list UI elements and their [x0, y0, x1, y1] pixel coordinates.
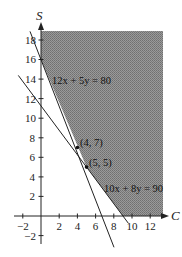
point-5-5-label: (5, 5): [89, 157, 112, 169]
x-tick-label: 10: [127, 220, 139, 232]
point-5-5: [85, 165, 89, 169]
point-4-7-label: (4, 7): [80, 137, 103, 149]
feasible-region-chart: −2 2 4 6 8 10 12 −2 2 4 6 8 10 12 14 16 …: [0, 0, 182, 257]
y-tick-label: 14: [25, 73, 37, 85]
x-tick-label: 2: [56, 220, 62, 232]
y-tick-label: 12: [25, 93, 36, 105]
point-4-7: [76, 146, 80, 150]
x-tick-labels: −2 2 4 6 8 10 12: [17, 220, 156, 232]
x-tick-label: 12: [145, 220, 156, 232]
y-tick-label: 8: [30, 132, 36, 144]
y-tick-label: 2: [30, 190, 36, 202]
y-axis-arrow-icon: [38, 22, 44, 30]
x-axis-arrow-icon: [161, 213, 169, 219]
y-axis-label: S: [36, 8, 43, 23]
x-axis-label: C: [171, 208, 180, 223]
x-tick-label: 4: [75, 220, 81, 232]
y-tick-label: 16: [25, 53, 37, 65]
x-tick-label: 8: [111, 220, 117, 232]
y-tick-label: −2: [24, 230, 36, 242]
line1-equation-label: 12x + 5y = 80: [52, 75, 111, 86]
y-tick-label: 10: [25, 112, 37, 124]
line2-equation-label: 10x + 8y = 90: [104, 183, 163, 194]
y-tick-label: 4: [30, 171, 36, 183]
y-tick-labels: −2 2 4 6 8 10 12 14 16 18: [24, 34, 36, 242]
y-tick-label: 6: [30, 151, 36, 163]
x-tick-label: 6: [93, 220, 99, 232]
